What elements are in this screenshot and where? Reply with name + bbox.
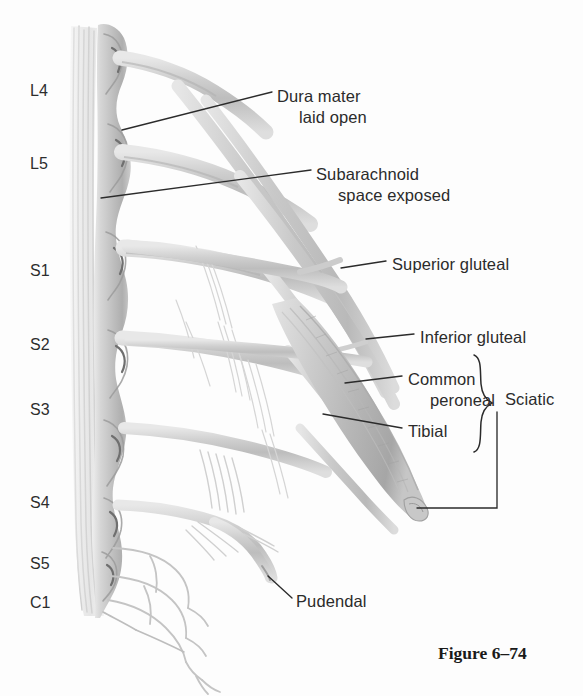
label-pudendal: Pudendal <box>296 591 367 612</box>
label-common-peroneal-line-1: Common <box>408 369 495 390</box>
nerve-root-S3 <box>124 428 326 472</box>
spinal-level-s1: S1 <box>30 262 50 280</box>
spinal-level-s4: S4 <box>30 494 50 512</box>
label-subarachnoid-space-exposed-line-1: Subarachnoid <box>316 164 450 185</box>
spinal-level-l5: L5 <box>30 155 48 173</box>
label-common-peroneal: Commonperoneal <box>408 369 495 411</box>
label-subarachnoid-space-exposed: Subarachnoidspace exposed <box>316 164 450 206</box>
spinal-level-c1: C1 <box>30 594 50 612</box>
label-superior-gluteal-line-1: Superior gluteal <box>392 254 509 275</box>
label-sciatic: Sciatic <box>505 389 554 410</box>
label-tibial: Tibial <box>408 421 447 442</box>
label-superior-gluteal: Superior gluteal <box>392 254 509 275</box>
label-inferior-gluteal-line-1: Inferior gluteal <box>420 327 526 348</box>
sacral-feather-branches <box>186 450 278 560</box>
leader-pudendal <box>268 576 292 598</box>
coccygeal-terminal-branch <box>103 612 184 652</box>
spinal-level-s3: S3 <box>30 401 50 419</box>
sacral-coccygeal-loops <box>108 548 220 694</box>
anatomy-figure: L4L5S1S2S3S4S5C1 Dura materlaid openSuba… <box>0 0 583 696</box>
label-inferior-gluteal: Inferior gluteal <box>420 327 526 348</box>
figure-caption: Figure 6–74 <box>438 643 527 664</box>
spinal-level-l4: L4 <box>30 82 48 100</box>
nerve-root-L5 <box>122 152 310 224</box>
spinal-level-s5: S5 <box>30 555 50 573</box>
spinal-level-s2: S2 <box>30 336 50 354</box>
label-dura-mater-laid-open: Dura materlaid open <box>277 86 367 128</box>
label-pudendal-line-1: Pudendal <box>296 591 367 612</box>
label-dura-mater-laid-open-line-2: laid open <box>277 107 367 128</box>
label-sciatic-line-1: Sciatic <box>505 389 554 410</box>
dural-sac-wall <box>92 24 131 618</box>
label-tibial-line-1: Tibial <box>408 421 447 442</box>
label-dura-mater-laid-open-line-1: Dura mater <box>277 86 367 107</box>
label-common-peroneal-line-2: peroneal <box>408 390 495 411</box>
label-subarachnoid-space-exposed-line-2: space exposed <box>316 185 450 206</box>
leader-superior-gluteal <box>341 261 386 268</box>
